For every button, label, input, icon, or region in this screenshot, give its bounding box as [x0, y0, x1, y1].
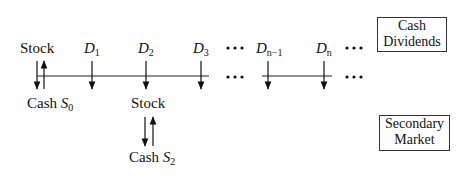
- dividend-symbol: D: [193, 40, 204, 56]
- cash-dividends-box: Cash Dividends: [377, 17, 447, 52]
- cash-text: Cash: [27, 95, 61, 111]
- stock-label: Stock: [20, 40, 54, 56]
- dividend-symbol: D: [138, 40, 149, 56]
- line-ellipsis-2: [345, 75, 362, 78]
- dividend-subscript: n−1: [267, 47, 283, 58]
- line-ellipsis-1: [226, 75, 243, 78]
- dividend-label-1: D1: [84, 40, 100, 61]
- label-ellipsis-1: [226, 46, 243, 49]
- dividend-label-3: D3: [193, 40, 209, 61]
- label-ellipsis-2: [345, 46, 362, 49]
- dividend-symbol: D: [316, 40, 327, 56]
- secondary-market-box: Secondary Market: [379, 115, 450, 151]
- secondary-cash-label: Cash S2: [129, 149, 175, 170]
- price-subscript: 0: [68, 102, 73, 113]
- secondary-market-line-1: Secondary: [380, 116, 449, 132]
- initial-cash-label: Cash S0: [27, 95, 73, 116]
- secondary-market-line-2: Market: [380, 132, 449, 148]
- dividend-subscript: 2: [149, 47, 154, 58]
- dividend-subscript: 3: [204, 47, 209, 58]
- secondary-stock-label: Stock: [131, 95, 165, 111]
- dividend-subscript: n: [327, 47, 332, 58]
- price-subscript: 2: [170, 156, 175, 167]
- cash-dividends-line-1: Cash: [378, 18, 446, 34]
- cash-dividends-line-2: Dividends: [378, 34, 446, 50]
- cash-text: Cash: [129, 149, 163, 165]
- dividend-subscript: 1: [95, 47, 100, 58]
- dividend-symbol: D: [84, 40, 95, 56]
- dividend-label-n: Dn: [316, 40, 332, 61]
- dividend-label-2: D2: [138, 40, 154, 61]
- dividend-symbol: D: [256, 40, 267, 56]
- dividend-label-n-1: Dn−1: [256, 40, 282, 61]
